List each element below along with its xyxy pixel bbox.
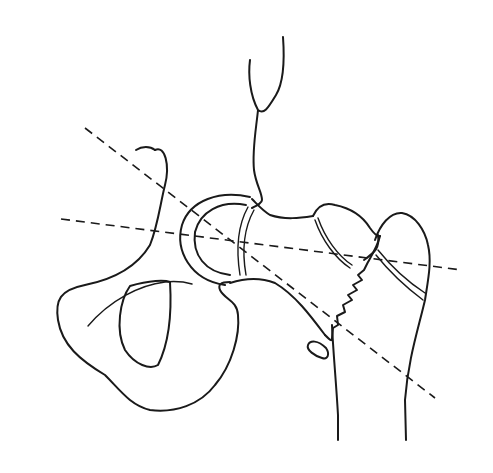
pelvis-outline [57,149,238,410]
distal-inner-lines [376,250,425,300]
femoral-shaft-left [332,325,338,440]
joint-capsule [249,37,283,208]
trochanter-inner-lines [315,218,352,268]
pelvis-crest [136,147,155,150]
pubic-line [88,282,192,326]
hip-fracture-diagram [0,0,493,473]
femoral-neck-lower [230,279,325,335]
femoral-head-line-1 [238,207,248,275]
lesser-trochanter [308,342,328,359]
distal-fragment [375,213,430,440]
horizontal-axis-dashed-line [61,219,462,270]
